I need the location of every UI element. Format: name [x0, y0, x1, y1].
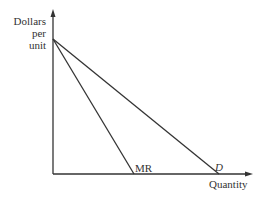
- demand-label: D: [215, 161, 223, 173]
- y-axis-label-line: per: [4, 27, 46, 39]
- mr-label: MR: [135, 162, 152, 174]
- x-axis-label: Quantity: [209, 178, 248, 190]
- y-axis-arrow-icon: [51, 9, 56, 17]
- mr-curve: [53, 39, 134, 174]
- demand-curve: [53, 39, 219, 174]
- y-axis-label-line: Dollars: [4, 15, 46, 27]
- x-axis-arrow-icon: [245, 172, 253, 177]
- y-axis-label-line: unit: [4, 39, 46, 51]
- y-axis-label: Dollars per unit: [4, 15, 46, 51]
